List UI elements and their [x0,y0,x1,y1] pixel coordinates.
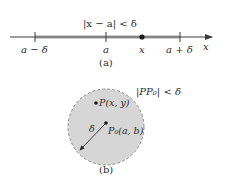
tick-label-x: x [139,45,145,55]
axis-label-x: x [203,42,209,52]
caption-a: (a) [99,58,113,68]
tick-label-a-plus-delta: a + δ [166,45,193,55]
point-p [94,101,98,105]
tick-label-a: a [103,45,109,55]
caption-b: (b) [99,165,113,175]
point-x [139,34,144,39]
tick-label-a-minus-delta: a − δ [21,45,48,55]
disk-inequality: |PP₀| < δ [136,87,181,97]
label-point-p: P(x, y) [99,98,130,108]
interval-inequality: |x − a| < δ [83,19,137,29]
label-point-p0: P₀(a, b) [108,126,143,136]
label-radius-delta: δ [89,124,95,134]
number-line [10,32,212,42]
